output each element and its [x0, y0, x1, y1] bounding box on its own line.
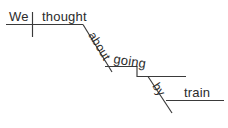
- word-going: going: [113, 51, 148, 71]
- word-train: train: [184, 85, 210, 100]
- diagram-canvas: We thought about going by train: [0, 0, 228, 128]
- gerund-step-line: [105, 67, 186, 77]
- word-about: about: [85, 29, 113, 63]
- word-we: We: [9, 9, 29, 24]
- sentence-diagram: We thought about going by train: [0, 0, 228, 128]
- word-thought: thought: [42, 9, 87, 24]
